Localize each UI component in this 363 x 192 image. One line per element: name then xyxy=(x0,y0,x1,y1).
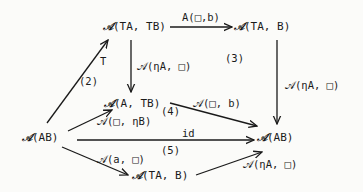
node-top-left: 𝒜(TA, TB) xyxy=(103,21,166,32)
node-right: 𝒜(AB) xyxy=(257,132,294,143)
label-top: A(□,b) xyxy=(182,12,220,23)
label-identity: id xyxy=(182,128,195,139)
region-2: (2) xyxy=(79,76,98,87)
label-left-to-bottom: 𝒜(a, □) xyxy=(97,154,145,165)
label-left-to-middle: 𝒜(□, ηB) xyxy=(97,116,151,127)
label-bottom-to-right: 𝒜(ηA, □) xyxy=(243,159,297,170)
node-bottom: 𝒜(TA, B) xyxy=(132,170,188,181)
label-right-down: 𝒜(ηA, □) xyxy=(285,80,339,91)
region-5: (5) xyxy=(161,145,180,156)
label-left-up: T xyxy=(100,56,106,67)
region-4: (4) xyxy=(161,106,180,117)
label-middle-down: 𝒜(ηA, □) xyxy=(137,61,191,72)
label-middle-to-right: 𝒜(□, b) xyxy=(193,98,241,109)
node-middle: 𝒜(A, TB) xyxy=(104,98,160,109)
diagram-arrows xyxy=(0,0,363,192)
node-top-right: 𝒜(TA, B) xyxy=(234,21,290,32)
region-3: (3) xyxy=(225,53,244,64)
arrow-left-up xyxy=(47,40,108,123)
node-left: 𝒜(AB) xyxy=(22,132,59,143)
